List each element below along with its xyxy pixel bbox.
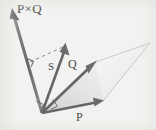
cross-product-vector (10, 8, 43, 113)
label-vector-q: Q (68, 58, 77, 70)
label-cross-product: P×Q (17, 2, 42, 15)
label-vector-p: P (76, 111, 83, 123)
pq-parallelogram-highlight (96, 43, 150, 101)
vector-diagram-figure: P×Q S Q P (0, 0, 156, 130)
label-area-vector: S (48, 61, 54, 72)
